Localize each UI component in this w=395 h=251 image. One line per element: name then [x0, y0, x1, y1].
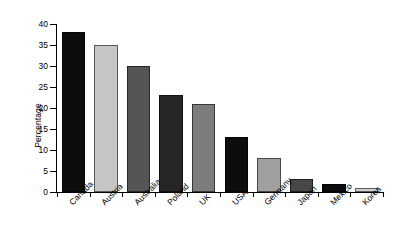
y-axis-tick	[50, 24, 56, 25]
plot-area	[57, 24, 383, 192]
x-axis-tick	[383, 193, 384, 197]
x-axis-tick	[187, 193, 188, 197]
y-axis-tick-label: 20	[8, 103, 48, 113]
y-axis-tick-label: 10	[8, 145, 48, 155]
x-axis-tick-label: UK	[197, 192, 212, 207]
x-axis-tick	[253, 193, 254, 197]
y-axis-tick-label: 15	[8, 124, 48, 134]
x-axis-tick	[285, 193, 286, 197]
y-axis-tick	[50, 150, 56, 151]
x-axis-tick	[350, 193, 351, 197]
y-axis-tick	[50, 45, 56, 46]
bar	[192, 104, 215, 192]
y-axis-tick-label: 25	[8, 82, 48, 92]
bar	[94, 45, 117, 192]
y-axis-tick	[50, 108, 56, 109]
bar	[225, 137, 248, 192]
x-axis-tick	[318, 193, 319, 197]
x-axis-tick	[57, 193, 58, 197]
y-axis-tick	[50, 129, 56, 130]
bar	[127, 66, 150, 192]
y-axis-tick	[50, 171, 56, 172]
y-axis-tick-label: 40	[8, 19, 48, 29]
x-axis-tick	[220, 193, 221, 197]
y-axis-tick-label: 5	[8, 166, 48, 176]
x-axis-tick	[90, 193, 91, 197]
y-axis-tick-label: 0	[8, 187, 48, 197]
x-axis-tick	[122, 193, 123, 197]
x-axis-tick	[155, 193, 156, 197]
bar-chart-figure: Percentage 0510152025303540 CanadaAustri…	[0, 0, 395, 251]
y-axis-tick	[50, 87, 56, 88]
y-axis-tick-label: 30	[8, 61, 48, 71]
y-axis-tick	[50, 66, 56, 67]
y-axis-tick-label: 35	[8, 40, 48, 50]
bar	[159, 95, 182, 192]
bar	[62, 32, 85, 192]
y-axis-tick	[50, 192, 56, 193]
